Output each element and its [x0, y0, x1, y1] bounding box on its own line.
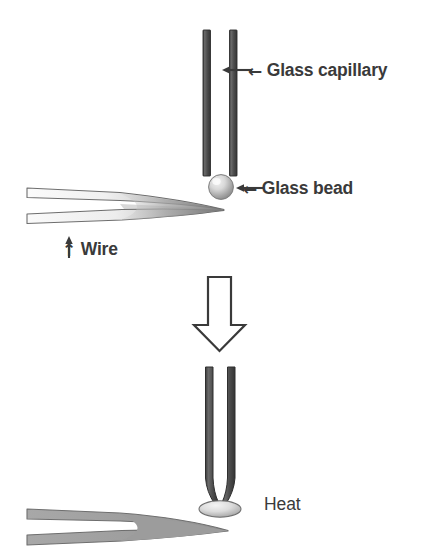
- label-wire: ↑ Wire: [62, 241, 118, 259]
- top-panel-graphics: [27, 30, 263, 258]
- label-glass-capillary-text: Glass capillary: [267, 60, 388, 80]
- bottom-panel-graphics: [27, 367, 241, 545]
- left-arrow-icon: ←: [243, 181, 257, 198]
- label-heat-text: Heat: [264, 494, 301, 514]
- glass-bead-sphere: [209, 175, 234, 200]
- wire-tweezers-bottom: [27, 509, 228, 545]
- capillary-wall-left-fused: [206, 367, 219, 504]
- label-glass-bead: ← Glass bead: [243, 180, 353, 198]
- glass-capillary-bottom: [206, 367, 236, 504]
- glass-capillary-top: [203, 30, 237, 176]
- capillary-wall-left: [203, 30, 211, 176]
- capillary-wall-right-fused: [222, 367, 235, 504]
- glass-bead-bottom: [199, 501, 241, 517]
- label-glass-bead-text: Glass bead: [262, 178, 353, 198]
- label-glass-capillary: ← Glass capillary: [248, 62, 387, 80]
- left-arrow-icon: ←: [248, 63, 262, 80]
- glass-bead-flattened: [199, 501, 241, 517]
- label-wire-text: Wire: [81, 239, 118, 259]
- label-heat: Heat: [264, 496, 301, 514]
- diagram-graphics: [0, 0, 432, 560]
- glass-bead-top: [209, 175, 234, 200]
- glass-bead-highlight: [212, 178, 220, 185]
- figure-canvas: ← Glass capillary ← Glass bead ↑ Wire He…: [0, 0, 432, 560]
- process-down-arrow: [194, 277, 245, 351]
- up-arrow-icon: ↑: [62, 242, 76, 259]
- wire-tweezers-top: [27, 188, 224, 224]
- capillary-wall-right: [230, 30, 238, 176]
